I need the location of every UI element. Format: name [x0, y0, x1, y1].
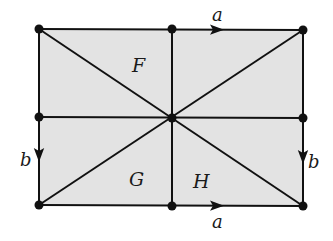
edge-label-bottom-a: a	[212, 211, 223, 232]
diagram-canvas: F G H a a b b	[0, 0, 333, 241]
vertex-dot	[168, 114, 177, 123]
region-label-f: F	[131, 54, 146, 76]
region-label-g: G	[129, 168, 144, 190]
edge-label-left-b: b	[20, 149, 32, 170]
region-label-h: H	[192, 170, 210, 192]
vertex-dot	[168, 25, 177, 34]
edge-label-top-a: a	[212, 4, 223, 25]
vertex-dot	[35, 113, 44, 122]
vertex-dot	[168, 202, 177, 211]
edge-label-right-b: b	[308, 151, 320, 172]
vertex-dot	[299, 26, 308, 35]
vertex-dot	[299, 202, 308, 211]
vertex-dot	[35, 25, 44, 34]
vertex-dot	[35, 201, 44, 210]
vertex-dot	[299, 114, 308, 123]
